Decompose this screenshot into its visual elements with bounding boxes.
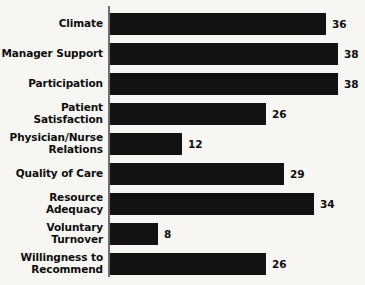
bar — [110, 253, 266, 275]
category-label: Patient Satisfaction — [0, 99, 103, 129]
bar-row: Participation38 — [0, 69, 365, 99]
bar-value-label: 26 — [272, 103, 286, 125]
bar-value-label: 38 — [344, 73, 358, 95]
category-label: Willingness to Recommend — [0, 249, 103, 279]
bar — [110, 193, 314, 215]
bar-row: Quality of Care29 — [0, 159, 365, 189]
bar — [110, 223, 158, 245]
bar-track: 29 — [110, 163, 365, 185]
horizontal-bar-chart: Climate36Manager Support38Participation3… — [0, 0, 365, 285]
bar — [110, 133, 182, 155]
bar-value-label: 26 — [272, 253, 286, 275]
bar-value-label: 38 — [344, 43, 358, 65]
bar-row: Climate36 — [0, 9, 365, 39]
category-label: Quality of Care — [0, 159, 103, 189]
bar-value-label: 8 — [164, 223, 171, 245]
category-label: Physician/Nurse Relations — [0, 129, 103, 159]
bar-row: Patient Satisfaction26 — [0, 99, 365, 129]
bar-track: 38 — [110, 43, 365, 65]
bar-track: 26 — [110, 103, 365, 125]
bar-row: Voluntary Turnover8 — [0, 219, 365, 249]
bar-track: 8 — [110, 223, 365, 245]
bar-value-label: 34 — [320, 193, 334, 215]
bar-row: Resource Adequacy34 — [0, 189, 365, 219]
bar-track: 26 — [110, 253, 365, 275]
bar-row: Willingness to Recommend26 — [0, 249, 365, 279]
category-label: Manager Support — [0, 39, 103, 69]
bar-track: 38 — [110, 73, 365, 95]
bar — [110, 13, 326, 35]
bar-value-label: 29 — [290, 163, 304, 185]
bar-track: 34 — [110, 193, 365, 215]
bar-value-label: 36 — [332, 13, 346, 35]
bar-track: 12 — [110, 133, 365, 155]
bar — [110, 163, 284, 185]
bar-row: Manager Support38 — [0, 39, 365, 69]
bar — [110, 43, 338, 65]
bar — [110, 103, 266, 125]
bar-value-label: 12 — [188, 133, 202, 155]
category-label: Participation — [0, 69, 103, 99]
bar-row: Physician/Nurse Relations12 — [0, 129, 365, 159]
bar — [110, 73, 338, 95]
category-label: Voluntary Turnover — [0, 219, 103, 249]
category-label: Climate — [0, 9, 103, 39]
bar-track: 36 — [110, 13, 365, 35]
bar-rows-container: Climate36Manager Support38Participation3… — [0, 9, 365, 279]
category-label: Resource Adequacy — [0, 189, 103, 219]
